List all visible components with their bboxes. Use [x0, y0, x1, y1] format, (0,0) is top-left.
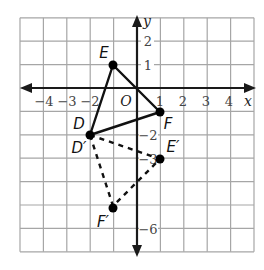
x-tick-label: −2: [80, 94, 99, 109]
y-axis-label: y: [142, 13, 152, 29]
point-label-d: D: [73, 115, 85, 133]
y-tick-label: 2: [144, 34, 152, 49]
x-tick-label: −3: [57, 94, 76, 109]
x-tick-label: −4: [34, 94, 53, 109]
x-tick-label: 3: [202, 94, 210, 109]
vertex-f-prime: [109, 204, 118, 213]
x-tick-label: 2: [179, 94, 187, 109]
x-axis-left-arrow-icon: [20, 83, 32, 93]
vertex-e: [109, 61, 118, 70]
point-label-f-prime: F′: [97, 213, 110, 231]
image-triangle-def-prime: [90, 135, 160, 206]
point-label-d-prime: D′: [72, 139, 88, 157]
coordinate-plane: −4 −3 −2 1 2 3 4 x O 2 1 −2 −3 −6 y E F …: [0, 0, 264, 270]
vertex-d-d-prime: [86, 131, 95, 140]
x-tick-label: 1: [156, 94, 164, 109]
y-tick-label: −6: [138, 222, 157, 237]
y-axis-up-arrow-icon: [132, 15, 142, 27]
x-axis-label: x: [244, 93, 252, 109]
origin-label: O: [120, 93, 132, 109]
y-tick-label: 1: [144, 58, 152, 73]
x-tick-labels: −4 −3 −2 1 2 3 4: [34, 94, 233, 109]
y-axis-down-arrow-icon: [132, 245, 142, 257]
x-tick-label: 4: [225, 94, 233, 109]
y-tick-label: −2: [138, 128, 157, 143]
point-label-e: E: [99, 44, 109, 62]
point-label-e-prime: E′: [167, 138, 180, 156]
y-tick-labels: 2 1 −2 −3 −6: [138, 33, 158, 237]
vertex-e-prime: [156, 155, 165, 164]
point-label-f: F: [164, 115, 173, 133]
